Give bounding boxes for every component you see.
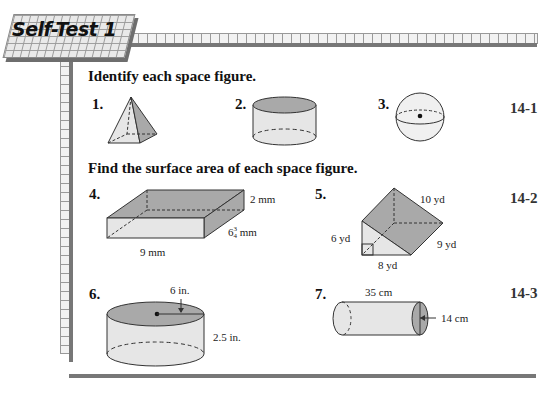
label-length-35cm: 35 cm bbox=[365, 286, 392, 298]
label-diameter-14cm: 14 cm bbox=[441, 312, 468, 324]
cylinder-7-figure bbox=[0, 0, 560, 400]
